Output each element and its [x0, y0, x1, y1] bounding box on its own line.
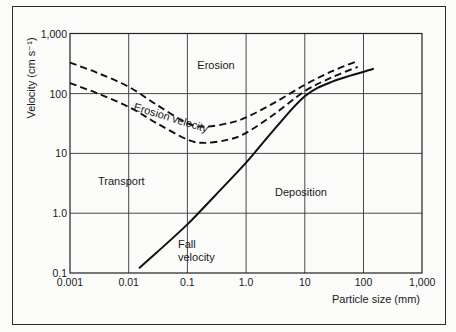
erosion-velocity-curve [70, 67, 358, 143]
fall-velocity-curve [139, 69, 374, 268]
x-axis-title: Particle size (mm) [332, 293, 420, 305]
curve-label-fall-line1: Fall [178, 238, 196, 250]
x-tick-label: 0.001 [57, 276, 83, 288]
y-axis-title: Velocity (cm s⁻¹) [25, 37, 37, 118]
y-tick-labels: 0.11.0101001,000 [41, 28, 67, 279]
y-tick-label: 1.0 [52, 207, 67, 219]
curves [70, 61, 374, 268]
x-tick-label: 0.01 [118, 276, 139, 288]
curve-label-fall-line2: velocity [178, 251, 215, 263]
x-tick-label: 100 [355, 276, 373, 288]
x-tick-label: 1,000 [409, 276, 435, 288]
curve-label-erosion-velocity: Erosion velocity [132, 100, 210, 134]
x-tick-label: 10 [299, 276, 311, 288]
hjulstrom-diagram: 0.11.0101001,000 0.0010.010.11.0101001,0… [0, 0, 456, 332]
y-tick-label: 10 [55, 147, 67, 159]
y-tick-label: 1,000 [41, 28, 67, 40]
region-label-erosion: Erosion [197, 59, 234, 71]
y-tick-label: 100 [49, 88, 67, 100]
region-label-deposition: Deposition [275, 186, 327, 198]
x-tick-label: 1.0 [239, 276, 254, 288]
x-tick-labels: 0.0010.010.11.0101001,000 [57, 276, 436, 288]
region-label-transport: Transport [98, 175, 145, 187]
x-tick-label: 0.1 [180, 276, 195, 288]
